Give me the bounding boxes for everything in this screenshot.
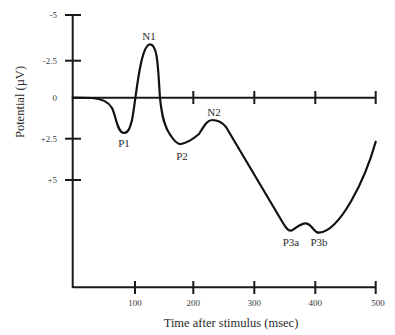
x-tick-label: 500: [371, 298, 385, 308]
peak-label-p1: P1: [118, 137, 130, 149]
y-tick-label: +5: [47, 175, 57, 185]
y-tick-label: -5: [50, 10, 58, 20]
y-tick-label: +2.5: [41, 134, 58, 144]
x-tick-label: 100: [128, 298, 142, 308]
x-axis-title: Time after stimulus (msec): [164, 316, 299, 330]
erp-waveform-chart: Potential (µV) -5 -2.5 0 +2.5 +5 100 200…: [0, 0, 395, 335]
x-axis-tick-labels: 100 200 300 400 500: [128, 298, 385, 308]
y-axis-tick-labels: -5 -2.5 0 +2.5 +5: [41, 10, 58, 185]
peak-label-p3b: P3b: [310, 236, 328, 248]
peak-labels: P1 N1 P2 N2 P3a P3b: [118, 30, 328, 248]
x-tick-label: 400: [309, 298, 323, 308]
x-tick-label: 200: [187, 298, 201, 308]
y-tick-label: 0: [53, 93, 58, 103]
peak-label-p2: P2: [176, 150, 188, 162]
peak-label-n1: N1: [142, 30, 155, 42]
y-axis-title: Potential (µV): [13, 66, 27, 138]
peak-label-n2: N2: [207, 106, 220, 118]
x-tick-label: 300: [248, 298, 262, 308]
peak-label-p3a: P3a: [283, 236, 300, 248]
y-tick-label: -2.5: [43, 56, 58, 66]
